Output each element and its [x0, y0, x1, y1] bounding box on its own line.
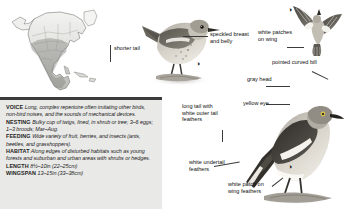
adult-marker-symbol-perched: ◑ — [288, 163, 292, 170]
adult-marker-symbol-juvenile: ◑ — [196, 60, 200, 67]
info-row-habitat-heading: HABITAT — [6, 148, 30, 154]
info-row-length: LENGTH 8½–10in (22–25cm) — [6, 163, 157, 170]
adult-mockingbird-illustration — [244, 78, 344, 215]
label-pointed-curved-bill-text: pointed curved bill — [272, 59, 317, 65]
label-gray-head: gray head — [247, 76, 277, 83]
label-speckled-breast-text: speckled breast and belly — [210, 31, 249, 44]
info-row-feeding: FEEDING Wide variety of fruit, berries, … — [6, 133, 157, 148]
adult-marker-symbol-flying: ◑ — [288, 6, 292, 13]
label-white-undertail: white undertail feathers — [189, 159, 225, 172]
leader-line-gray-head — [266, 86, 290, 87]
leader-line-shorter-tail — [110, 45, 111, 62]
info-row-nesting-heading: NESTING — [6, 119, 31, 125]
leader-line-speckled-breast — [183, 36, 208, 37]
leader-line-white-patches — [287, 47, 304, 48]
label-speckled-breast: speckled breast and belly — [210, 31, 256, 44]
info-row-nesting: NESTING Bulky cup of twigs, lined, in sh… — [6, 119, 157, 134]
info-row-wingspan-heading: WINGSPAN — [6, 170, 36, 176]
label-yellow-eye: yellow eye — [243, 100, 275, 107]
label-gray-head-text: gray head — [247, 76, 272, 82]
info-row-voice-text: Long, complex repertoire often imitating… — [6, 104, 145, 117]
label-white-patches-on-wing-text: white patches on wing — [258, 29, 292, 42]
label-yellow-eye-text: yellow eye — [243, 100, 269, 106]
species-info-box: VOICE Long, complex repertoire often imi… — [0, 97, 162, 209]
label-long-tail: long tail with white outer tail feathers — [182, 103, 226, 123]
north-america-range-map — [8, 4, 100, 96]
label-white-patch-on-wing-feathers: white patch on wing feathers — [228, 181, 270, 194]
label-long-tail-text: long tail with white outer tail feathers — [182, 103, 218, 122]
info-row-feeding-heading: FEEDING — [6, 133, 31, 139]
info-row-voice: VOICE Long, complex repertoire often imi… — [6, 104, 157, 119]
label-white-undertail-text: white undertail feathers — [189, 159, 225, 172]
label-white-patch-on-wing-feathers-text: white patch on wing feathers — [228, 181, 264, 194]
label-shorter-tail-text: shorter tail — [114, 45, 140, 51]
label-white-patches-on-wing: white patches on wing — [258, 29, 298, 42]
info-row-voice-heading: VOICE — [6, 104, 23, 110]
info-row-wingspan-text: 13–15in (33–38cm) — [38, 170, 84, 176]
info-row-length-heading: LENGTH — [6, 163, 29, 169]
info-row-habitat: HABITAT Along edges of disturbed habitat… — [6, 148, 157, 163]
info-row-length-text: 8½–10in (22–25cm) — [30, 163, 77, 169]
label-shorter-tail: shorter tail — [114, 45, 154, 52]
label-pointed-curved-bill: pointed curved bill — [272, 59, 320, 66]
info-row-wingspan: WINGSPAN 13–15in (33–38cm) — [6, 170, 157, 177]
field-guide-page: ◑ ◑ — [0, 0, 344, 215]
leader-line-long-tail — [222, 130, 223, 142]
